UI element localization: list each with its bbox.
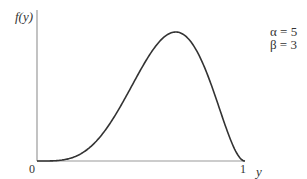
density-curve [37, 32, 245, 161]
beta-parameter: β = 3 [270, 38, 297, 51]
x-tick-1: 1 [240, 163, 246, 175]
y-axis-label: f(y) [15, 10, 33, 23]
beta-density-chart [0, 0, 307, 179]
x-tick-0: 0 [29, 163, 35, 175]
x-axis-label: y [256, 165, 262, 178]
parameter-legend: α = 5 β = 3 [270, 25, 297, 51]
